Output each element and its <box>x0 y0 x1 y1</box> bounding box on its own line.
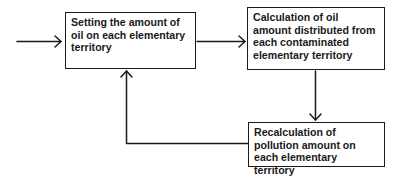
arrow-calc-to-recalc-icon <box>310 71 321 120</box>
arrow-recalc-to-set-icon <box>121 71 248 144</box>
node-label: Setting the amount of oil on each elemen… <box>71 16 185 53</box>
arrow-set-to-calc-icon <box>197 36 245 47</box>
node-set-oil: Setting the amount of oil on each elemen… <box>65 12 196 69</box>
node-label: Calculation of oil amount distributed fr… <box>253 11 375 61</box>
input-arrow-icon <box>17 36 61 47</box>
node-recalc-pollution: Recalculation of pollution amount on eac… <box>248 122 385 167</box>
node-calc-distributed: Calculation of oil amount distributed fr… <box>247 7 385 70</box>
